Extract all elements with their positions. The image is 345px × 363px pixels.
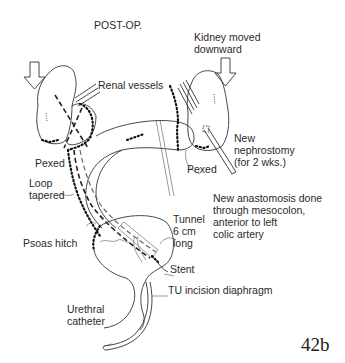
ureter-loop xyxy=(86,86,194,228)
label-pexed-right: Pexed xyxy=(187,163,217,175)
diagram-canvas: POST-OP. Kidney moved downward Renal ves… xyxy=(0,0,345,363)
label-urethral-catheter: Urethral catheter xyxy=(67,303,105,327)
label-renal-vessels: Renal vessels xyxy=(98,79,163,91)
figure-number: 42b xyxy=(301,334,330,356)
label-new-nephrostomy: New nephrostomy (for 2 wks.) xyxy=(234,132,295,168)
label-psoas-hitch: Psoas hitch xyxy=(23,237,77,249)
left-down-arrow-icon xyxy=(24,62,45,89)
tapered-loop xyxy=(68,150,156,258)
label-loop-tapered: Loop tapered xyxy=(29,177,65,201)
label-stent: Stent xyxy=(170,263,195,275)
left-kidney-shape xyxy=(37,66,96,150)
label-pexed-left: Pexed xyxy=(35,157,65,169)
label-tu-incision: TU incision diaphragm xyxy=(168,284,272,296)
label-new-anastomosis: New anastomosis done through mesocolon, … xyxy=(213,192,322,240)
right-down-arrow-icon xyxy=(215,58,236,86)
label-kidney-moved: Kidney moved downward xyxy=(194,31,261,55)
right-renal-vessels xyxy=(178,80,199,114)
label-tunnel: Tunnel 6 cm long xyxy=(173,213,205,249)
figure-title: POST-OP. xyxy=(94,19,142,31)
right-kidney-shape xyxy=(187,71,236,174)
left-renal-vessels xyxy=(75,84,100,106)
